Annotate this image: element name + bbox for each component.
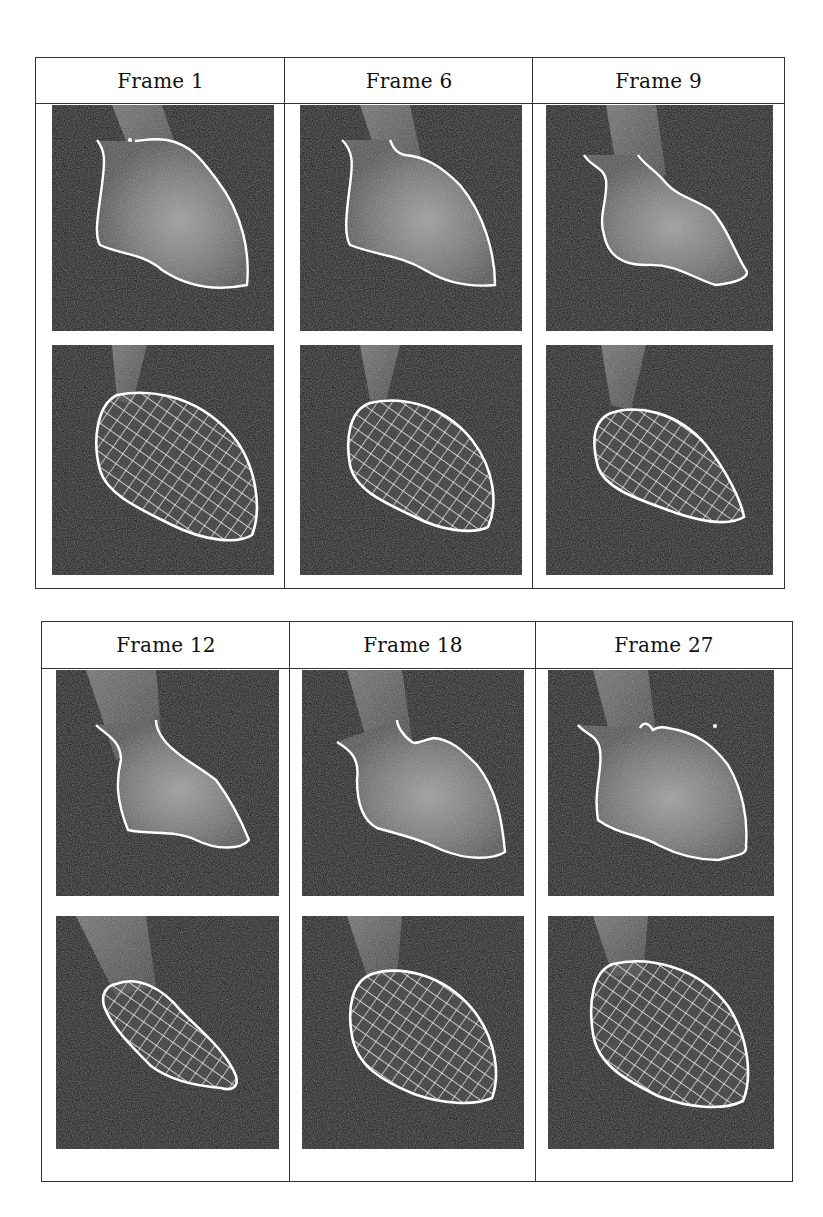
mri-frame-6-contour: [300, 105, 522, 331]
column-header-frame-12: Frame 12: [42, 622, 290, 668]
column-header-frame-6: Frame 6: [285, 58, 533, 103]
column-header-frame-1: Frame 1: [36, 58, 285, 103]
figure-table-top: Frame 1 Frame 6 Frame 9: [35, 57, 785, 589]
column-header-frame-18: Frame 18: [290, 622, 536, 668]
mri-frame-1-contour: [52, 105, 274, 331]
wireframe-frame-12: [56, 916, 279, 1149]
header-row: Frame 12 Frame 18 Frame 27: [42, 622, 792, 669]
wireframe-frame-6: [300, 345, 522, 575]
wireframe-frame-27: [548, 916, 774, 1149]
mri-frame-27-contour: [548, 670, 774, 896]
column-divider: [535, 622, 536, 1181]
mri-frame-12-contour: [56, 670, 279, 896]
column-header-frame-9: Frame 9: [533, 58, 784, 103]
column-divider: [532, 58, 533, 588]
column-header-frame-27: Frame 27: [536, 622, 792, 668]
column-divider: [289, 622, 290, 1181]
wireframe-frame-9: [546, 345, 773, 575]
wireframe-frame-1: [52, 345, 274, 575]
header-row: Frame 1 Frame 6 Frame 9: [36, 58, 784, 104]
figure-table-bottom: Frame 12 Frame 18 Frame 27: [41, 621, 793, 1182]
column-divider: [284, 58, 285, 588]
mri-frame-9-contour: [546, 105, 773, 331]
wireframe-frame-18: [302, 916, 524, 1149]
mri-frame-18-contour: [302, 670, 524, 896]
